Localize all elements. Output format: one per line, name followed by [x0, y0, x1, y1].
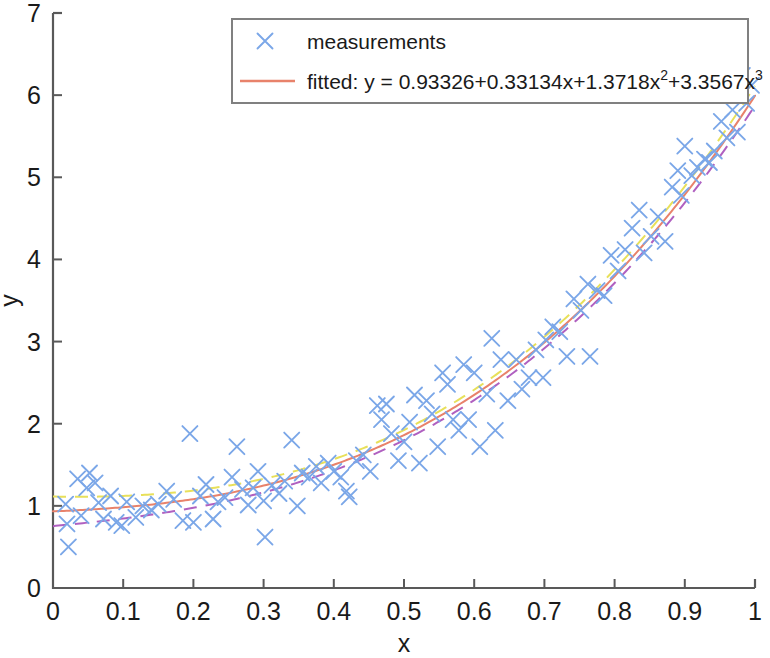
legend-label-measurements: measurements — [307, 30, 446, 53]
legend-fitted-mid: +3.3567x — [668, 70, 755, 93]
x-tick-label: 1 — [748, 597, 762, 625]
y-tick-label: 0 — [27, 574, 41, 602]
x-tick-label: 0.3 — [246, 597, 281, 625]
scatter-plot-canvas: 00.10.20.30.40.50.60.70.80.91 01234567 x… — [0, 0, 770, 658]
x-tick-label: 0.2 — [176, 597, 211, 625]
legend-label-fitted: fitted: y = 0.93326+0.33134x+1.3718x2+3.… — [307, 67, 763, 93]
y-tick-label: 1 — [27, 492, 41, 520]
x-tick-label: 0.5 — [387, 597, 422, 625]
x-tick-label: 0.1 — [106, 597, 141, 625]
x-tick-label: 0.4 — [316, 597, 351, 625]
x-tick-label: 0.7 — [527, 597, 562, 625]
chart-legend: measurementsfitted: y = 0.93326+0.33134x… — [232, 19, 763, 103]
legend-fitted-sup1: 2 — [660, 67, 668, 83]
y-tick-label: 2 — [27, 410, 41, 438]
x-tick-label: 0.8 — [597, 597, 632, 625]
chart-figure: 00.10.20.30.40.50.60.70.80.91 01234567 x… — [0, 0, 770, 658]
x-axis-title-text: x — [398, 629, 411, 657]
x-tick-label: 0.6 — [457, 597, 492, 625]
y-tick-label: 7 — [27, 0, 41, 27]
y-tick-label: 4 — [27, 245, 41, 273]
legend-fitted-prefix: fitted: y = 0.93326+0.33134x+1.3718x — [307, 70, 661, 93]
x-tick-label: 0 — [46, 597, 60, 625]
y-tick-label: 3 — [27, 328, 41, 356]
x-tick-label: 0.9 — [667, 597, 702, 625]
legend-fitted-sup2: 3 — [755, 67, 763, 83]
x-axis-title: x — [398, 629, 411, 657]
y-axis-title: y — [0, 294, 23, 307]
y-tick-label: 5 — [27, 163, 41, 191]
y-tick-label: 6 — [27, 81, 41, 109]
y-axis-title-text: y — [0, 294, 23, 307]
